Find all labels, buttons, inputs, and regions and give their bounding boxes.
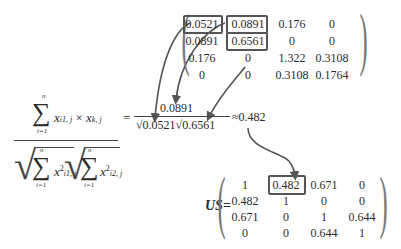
highlight-box-0521	[183, 15, 223, 34]
matrix-cell: 0	[270, 34, 314, 48]
matrix-cell: 0	[226, 51, 270, 65]
result: ≈0.482	[232, 110, 266, 125]
sigma-icon: ∑	[32, 100, 51, 126]
computation-fraction-bar	[134, 116, 230, 117]
matrix-cell: 1	[223, 178, 267, 192]
matrix-cell: 0	[226, 68, 270, 82]
fraction-bar	[14, 140, 118, 141]
computed-denominator: √0.0521√0.6561	[136, 118, 215, 133]
matrix-cell: 1	[340, 226, 384, 240]
matrix-cell: 0.3108	[310, 51, 354, 65]
denominator-right-term: x2i2, j	[100, 164, 122, 180]
matrix-cell: 0.671	[223, 210, 267, 224]
matrix-cell: 0	[310, 34, 354, 48]
matrix-cell: 0.176	[180, 51, 224, 65]
highlight-box-result	[268, 175, 306, 195]
matrix-cell: 0	[180, 68, 224, 82]
matrix-cell: 0.644	[340, 210, 384, 224]
matrix-cell: 0	[340, 178, 384, 192]
matrix-cell: 0.0891	[180, 34, 224, 48]
matrix-cell: 0.3108	[270, 68, 314, 82]
matrix-cell: 0.176	[270, 17, 314, 31]
matrix-cell: 0	[223, 226, 267, 240]
sigma-icon: ∑	[80, 154, 99, 180]
matrix-cell: 0.482	[223, 194, 267, 208]
top-matrix-right-paren: )	[360, 4, 368, 74]
arrow-result	[248, 128, 295, 176]
matrix-cell: 1.322	[270, 51, 314, 65]
sigma-icon: ∑	[32, 154, 51, 180]
matrix-cell: 0.1764	[310, 68, 354, 82]
numerator-terms: xi1, j × xk, j	[54, 110, 102, 126]
equals-sign: =	[123, 110, 130, 126]
matrix-cell: 0	[310, 17, 354, 31]
matrix-cell: 0	[340, 194, 384, 208]
computed-numerator: 0.0891	[160, 101, 193, 116]
highlight-box-6561	[226, 32, 268, 51]
